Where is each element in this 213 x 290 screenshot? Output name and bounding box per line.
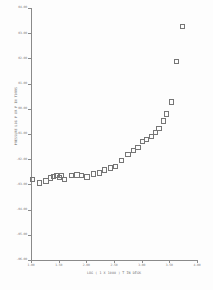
data-point	[113, 164, 118, 169]
data-point	[108, 165, 113, 170]
data-point	[156, 126, 161, 131]
data-point	[174, 59, 179, 64]
y-axis-title: PRESSURE LOG P OR P IN TORRS	[14, 56, 18, 176]
y-tick	[28, 84, 31, 85]
data-point	[161, 118, 166, 123]
y-tick-label: 03.00	[0, 32, 27, 35]
data-point	[125, 152, 130, 157]
data-point	[62, 177, 67, 182]
x-tick-label: 3.50	[158, 264, 180, 267]
scatter-plot-figure: -06.00-05.00-04.00-03.00-02.00-01.0000.0…	[0, 0, 213, 290]
data-point	[37, 180, 42, 185]
data-point	[164, 111, 169, 116]
data-point	[97, 170, 102, 175]
y-tick-label: -03.00	[0, 183, 27, 186]
x-tick-label: 1.00	[20, 264, 42, 267]
y-tick	[28, 33, 31, 34]
data-point	[180, 24, 185, 29]
y-tick	[28, 109, 31, 110]
x-tick-label: 1.50	[48, 264, 70, 267]
data-point	[119, 158, 124, 163]
y-tick	[28, 58, 31, 59]
y-tick-label: 04.00	[0, 6, 27, 9]
x-tick-label: 3.00	[131, 264, 153, 267]
y-tick-label: -04.00	[0, 208, 27, 211]
data-point	[30, 177, 35, 182]
y-tick-label: -05.00	[0, 233, 27, 236]
y-tick	[28, 159, 31, 160]
data-point	[79, 173, 84, 178]
data-point	[135, 145, 140, 150]
y-tick	[28, 184, 31, 185]
data-point	[91, 171, 96, 176]
x-tick-label: 4.00	[186, 264, 208, 267]
data-point	[169, 99, 174, 104]
data-point	[102, 167, 107, 172]
y-tick	[28, 210, 31, 211]
data-point	[69, 173, 74, 178]
x-axis-title: LOG ( 1 X 1000 ) T IN DEGK	[31, 271, 197, 275]
x-tick-label: 2.50	[103, 264, 125, 267]
y-axis-line	[31, 8, 32, 260]
y-tick	[28, 134, 31, 135]
y-tick-label: -06.00	[0, 258, 27, 261]
y-tick	[28, 235, 31, 236]
x-tick-label: 2.00	[75, 264, 97, 267]
data-point	[84, 174, 89, 179]
y-tick	[28, 8, 31, 9]
